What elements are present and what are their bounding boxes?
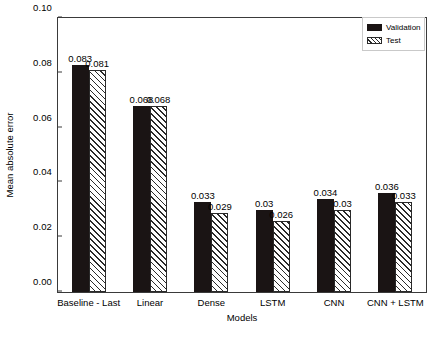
bar-test: 0.068 — [150, 106, 167, 292]
y-tick-label: 0.06 — [33, 111, 52, 122]
bar-value-label: 0.03 — [333, 198, 352, 209]
legend-label: Validation — [386, 23, 421, 32]
bar-test: 0.029 — [211, 213, 228, 292]
bar-value-label: 0.033 — [191, 190, 215, 201]
legend-swatch-test — [367, 37, 382, 44]
bar-validation: 0.033 — [194, 202, 211, 292]
y-tick-mark — [58, 181, 62, 182]
bar-value-label: 0.068 — [147, 94, 171, 105]
legend-item: Test — [367, 35, 420, 46]
bar-validation: 0.036 — [378, 193, 395, 292]
bar-value-label: 0.026 — [269, 209, 293, 220]
y-tick-mark — [58, 71, 62, 72]
legend-label: Test — [386, 36, 401, 45]
chart-legend: ValidationTest — [362, 17, 425, 51]
y-tick-label: 0.02 — [33, 221, 52, 232]
x-tick-label: CNN — [324, 297, 345, 308]
chart-figure: Mean absolute error 0.000.020.040.060.08… — [0, 0, 439, 337]
y-tick-label: 0.00 — [33, 276, 52, 287]
bar-value-label: 0.029 — [208, 201, 232, 212]
y-axis-title: Mean absolute error — [4, 112, 15, 197]
bar-validation: 0.068 — [133, 106, 150, 292]
bar-value-label: 0.081 — [85, 58, 109, 69]
y-tick-mark — [58, 17, 62, 18]
bar-validation: 0.034 — [317, 199, 334, 292]
bar-test: 0.03 — [334, 210, 351, 292]
y-tick-label: 0.10 — [33, 2, 52, 13]
x-tick-label: CNN + LSTM — [367, 297, 424, 308]
bar-test: 0.081 — [89, 70, 106, 292]
legend-swatch-validation — [367, 24, 382, 31]
bar-value-label: 0.033 — [392, 190, 416, 201]
x-tick-label: LSTM — [260, 297, 285, 308]
y-tick-mark — [58, 291, 62, 292]
bar-test: 0.033 — [395, 202, 412, 292]
y-tick-mark — [58, 236, 62, 237]
y-tick-label: 0.04 — [33, 166, 52, 177]
legend-item: Validation — [367, 22, 420, 33]
y-tick-mark — [58, 126, 62, 127]
y-tick-label: 0.08 — [33, 56, 52, 67]
bar-value-label: 0.034 — [314, 187, 338, 198]
bar-value-label: 0.03 — [255, 198, 274, 209]
bar-validation: 0.083 — [72, 65, 89, 292]
x-axis-title: Models — [227, 312, 258, 323]
x-tick-label: Linear — [137, 297, 163, 308]
bar-test: 0.026 — [273, 221, 290, 292]
x-tick-label: Dense — [198, 297, 225, 308]
bar-validation: 0.03 — [256, 210, 273, 292]
x-tick-label: Baseline - Last — [57, 297, 120, 308]
plot-area: 0.000.020.040.060.080.10 0.0830.0810.068… — [57, 17, 427, 293]
